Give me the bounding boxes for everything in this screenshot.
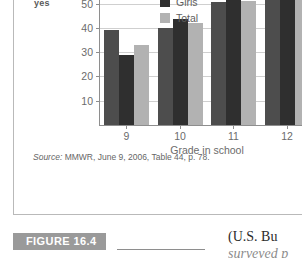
y-tick-label: 10: [81, 95, 93, 107]
bar-total-grade-11: [241, 1, 256, 125]
plot-area: 1020304050609101112: [100, 0, 302, 125]
y-tick-label: 50: [81, 0, 93, 10]
source-note: Source: MMWR, June 9, 2006, Table 44, p.…: [33, 152, 210, 162]
figure-number-tag: FIGURE 16.4: [13, 233, 106, 250]
legend-item-girls: Girls: [160, 0, 198, 8]
legend-swatch-girls: [160, 0, 170, 7]
legend-label-total: Total: [176, 12, 198, 24]
legend-item-total: Total: [160, 12, 198, 24]
y-tick-mark: [96, 101, 100, 102]
bar-total-grade-10: [188, 23, 203, 125]
x-tick-label: 9: [104, 130, 149, 142]
legend-label-girls: Girls: [176, 0, 198, 8]
plot-inner: 1020304050609101112: [100, 0, 302, 125]
figure-rule: [117, 249, 205, 250]
bar-group: 12: [265, 0, 303, 125]
x-tick-label: 12: [265, 130, 303, 142]
y-tick-mark: [96, 76, 100, 77]
y-tick-mark: [96, 52, 100, 53]
bar-girls-grade-9: [119, 55, 134, 125]
bar-boys-grade-12: [265, 0, 280, 125]
source-prefix: Source:: [33, 152, 62, 162]
bar-group: 9: [104, 0, 149, 125]
chart-legend: GirlsTotal: [160, 0, 198, 28]
bar-girls-grade-10: [173, 19, 188, 125]
figure-caption: FIGURE 16.4: [13, 233, 205, 251]
bar-boys-grade-11: [211, 2, 226, 125]
y-tick-label: 40: [81, 22, 93, 34]
body-text-fragment: (U.S. Bu surveyed p: [228, 228, 288, 258]
bar-total-grade-12: [295, 0, 303, 125]
source-citation: MMWR, June 9, 2006, Table 44, p. 78.: [62, 152, 209, 162]
bar-boys-grade-9: [104, 30, 119, 125]
x-tick-mark: [126, 125, 127, 129]
y-axis-label-fragment: yes: [34, 0, 50, 8]
x-tick-label: 11: [211, 130, 256, 142]
x-tick-mark: [180, 125, 181, 129]
x-axis-line: [99, 125, 302, 126]
bar-chart: yes 1020304050609101112 GirlsTotal Grade…: [14, 0, 302, 175]
x-tick-mark: [233, 125, 234, 129]
bar-boys-grade-10: [158, 28, 173, 125]
figure-box: yes 1020304050609101112 GirlsTotal Grade…: [13, 0, 302, 215]
bar-total-grade-9: [134, 45, 149, 125]
bar-group: 11: [211, 0, 256, 125]
legend-swatch-total: [160, 13, 170, 23]
x-tick-mark: [287, 125, 288, 129]
y-tick-label: 30: [81, 46, 93, 58]
body-text-line-1: (U.S. Bu: [228, 229, 277, 244]
bar-girls-grade-12: [280, 0, 295, 125]
bar-girls-grade-11: [226, 0, 241, 125]
body-text-line-2: surveyed p: [228, 245, 288, 258]
y-tick-mark: [96, 28, 100, 29]
y-tick-label: 20: [81, 70, 93, 82]
y-tick-mark: [96, 4, 100, 5]
x-tick-label: 10: [158, 130, 203, 142]
